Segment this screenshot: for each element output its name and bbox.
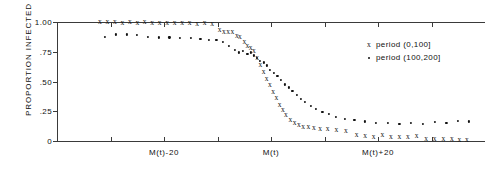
data-point-dot	[246, 52, 248, 54]
data-point-cross: x	[238, 34, 242, 42]
data-point-dot	[300, 98, 302, 100]
data-point-cross: x	[318, 125, 322, 133]
data-point-dot	[259, 60, 261, 62]
data-point-dot	[256, 57, 258, 59]
data-point-dot	[398, 123, 400, 125]
chart-legend: x period (0,100] period (100,200]	[362, 38, 441, 64]
data-point-dot	[344, 118, 346, 120]
data-point-dot	[445, 121, 447, 123]
data-point-cross: x	[293, 119, 297, 127]
data-point-dot	[115, 33, 117, 35]
data-point-cross: x	[344, 127, 348, 135]
data-point-cross: x	[465, 136, 469, 144]
data-point-dot	[125, 33, 127, 35]
data-point-dot	[222, 41, 224, 43]
data-point-dot	[353, 119, 355, 121]
y-tick-label: 1.00	[35, 18, 52, 27]
data-point-dot	[168, 36, 170, 38]
data-point-cross: x	[165, 19, 169, 27]
data-point-cross: x	[271, 88, 275, 96]
data-point-cross: x	[334, 126, 338, 134]
data-point-cross: x	[301, 123, 305, 131]
data-point-dot	[190, 37, 192, 39]
data-point-dot	[422, 123, 424, 125]
data-point-cross: x	[262, 68, 266, 76]
y-tick-mark	[53, 52, 58, 53]
data-point-dot	[147, 36, 149, 38]
data-point-dot	[457, 120, 459, 122]
data-point-cross: x	[363, 132, 367, 140]
y-tick-label: .50	[40, 77, 52, 86]
data-point-dot	[208, 39, 210, 41]
x-tick-mark	[271, 137, 272, 142]
x-tick-label: M(t)	[263, 148, 280, 157]
data-point-dot	[179, 37, 181, 39]
data-point-cross: x	[222, 28, 226, 36]
x-tick-mark	[432, 137, 433, 142]
data-point-cross: x	[457, 136, 461, 144]
data-point-dot	[234, 49, 236, 51]
data-point-dot	[242, 50, 244, 52]
data-point-dot	[284, 83, 286, 85]
x-tick-mark-top	[271, 22, 272, 27]
data-point-cross: x	[249, 44, 253, 52]
data-point-cross: x	[312, 124, 316, 132]
data-point-dot	[269, 69, 271, 71]
x-tick-mark	[111, 137, 112, 142]
data-point-dot	[375, 121, 377, 123]
scatter-chart-figure: PROPORTION INFECTED 1.00.75.50.250 M(t)-…	[0, 0, 500, 174]
y-tick-mark	[53, 111, 58, 112]
legend-entry-period-0-100: x period (0,100]	[362, 38, 441, 51]
y-tick-mark	[53, 22, 58, 23]
legend-entry-period-100-200: period (100,200]	[362, 51, 441, 64]
x-tick-mark-top	[164, 22, 165, 27]
data-point-dot	[280, 79, 282, 81]
data-point-dot	[276, 75, 278, 77]
data-point-dot	[273, 71, 275, 73]
data-point-cross: x	[265, 75, 269, 83]
data-point-cross: x	[235, 33, 239, 41]
data-point-dot	[238, 51, 240, 53]
x-tick-mark	[218, 137, 219, 142]
data-point-dot	[215, 39, 217, 41]
data-point-cross: x	[297, 121, 301, 129]
x-tick-mark-top	[218, 22, 219, 27]
legend-cross-icon: x	[362, 40, 376, 49]
data-point-cross: x	[188, 19, 192, 27]
data-point-cross: x	[372, 133, 376, 141]
data-point-cross: x	[281, 106, 285, 114]
data-point-dot	[104, 36, 106, 38]
data-point-cross: x	[242, 38, 246, 46]
data-point-cross: x	[255, 54, 259, 62]
legend-dot-icon	[362, 53, 376, 62]
x-tick-mark	[378, 137, 379, 142]
data-point-dot	[321, 111, 323, 113]
data-point-cross: x	[278, 102, 282, 110]
data-point-cross: x	[268, 81, 272, 89]
data-point-cross: x	[288, 116, 292, 124]
data-point-dot	[309, 105, 311, 107]
data-point-cross: x	[218, 27, 222, 35]
data-markers-layer: xxxxxxxxxxxxxxxxxxxxxxxxxxxxxxxxxxxxxxxx…	[0, 0, 500, 174]
data-point-dot	[364, 120, 366, 122]
data-point-dot	[315, 108, 317, 110]
data-point-cross: x	[252, 47, 256, 55]
data-point-dot	[228, 45, 230, 47]
data-point-cross: x	[355, 131, 359, 139]
data-point-cross: x	[415, 132, 419, 140]
data-point-cross: x	[231, 28, 235, 36]
data-point-dot	[387, 122, 389, 124]
data-point-cross: x	[258, 61, 262, 69]
y-tick-label: .75	[40, 47, 52, 56]
data-point-dot	[253, 54, 255, 56]
data-point-dot	[262, 61, 264, 63]
data-point-dot	[410, 122, 412, 124]
data-point-dot	[296, 94, 298, 96]
y-tick-label: .25	[40, 107, 52, 116]
y-tick-label: 0	[47, 137, 52, 146]
data-point-cross: x	[326, 125, 330, 133]
data-point-cross: x	[389, 133, 393, 141]
x-tick-mark	[325, 137, 326, 142]
data-point-dot	[288, 86, 290, 88]
y-axis-tick-labels: 1.00.75.50.250	[0, 0, 52, 174]
